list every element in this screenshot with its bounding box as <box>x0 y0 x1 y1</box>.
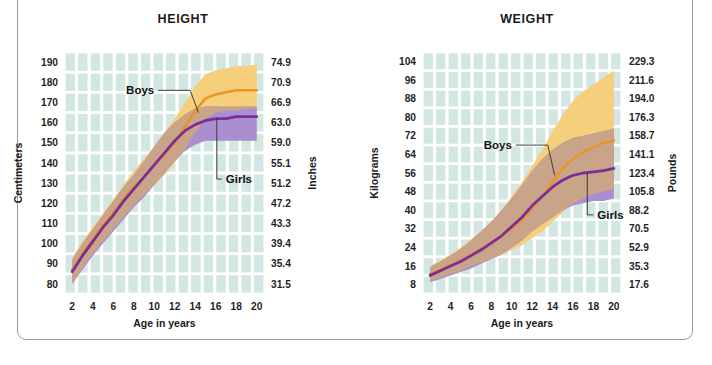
y-tick-left: 64 <box>405 149 417 160</box>
x-tick: 16 <box>567 301 579 312</box>
y-tick-right: 51.2 <box>271 178 291 189</box>
y-tick-left: 150 <box>41 137 58 148</box>
girls-series-label: Girls <box>226 173 252 185</box>
x-axis-label: Age in years <box>133 317 196 329</box>
x-tick: 10 <box>506 301 518 312</box>
y-tick-left: 40 <box>405 205 417 216</box>
x-tick: 20 <box>251 301 263 312</box>
y-tick-right: 55.1 <box>271 158 291 169</box>
boys-series-label: Boys <box>126 84 154 96</box>
y-tick-left: 88 <box>405 93 417 104</box>
y-tick-left: 80 <box>47 279 59 290</box>
y-tick-left: 72 <box>405 130 417 141</box>
x-tick: 2 <box>427 301 433 312</box>
x-tick: 8 <box>131 301 137 312</box>
y-tick-left: 80 <box>405 112 417 123</box>
x-tick: 6 <box>468 301 474 312</box>
y-tick-left: 140 <box>41 158 58 169</box>
y-tick-left: 110 <box>42 218 59 229</box>
y-tick-right: 176.3 <box>629 112 655 123</box>
y-tick-right: 229.3 <box>629 56 655 67</box>
girls-series-label: Girls <box>597 209 623 221</box>
y-tick-left: 24 <box>405 242 417 253</box>
y-tick-right: 70.9 <box>271 77 291 88</box>
x-tick: 14 <box>190 301 202 312</box>
x-tick: 18 <box>588 301 600 312</box>
growth-chart-figure: HEIGHT 190180170160150140130120110100908… <box>0 0 712 365</box>
y-tick-right: 141.1 <box>629 149 655 160</box>
weight-chart: WEIGHT 10496888072645648403224168229.321… <box>350 0 706 365</box>
y-axis-label-right: Inches <box>306 156 318 189</box>
y-tick-right: 47.2 <box>271 198 291 209</box>
y-tick-left: 56 <box>405 168 417 179</box>
y-tick-right: 43.3 <box>271 218 291 229</box>
x-tick: 4 <box>90 301 96 312</box>
y-tick-left: 104 <box>399 56 416 67</box>
x-tick: 4 <box>448 301 454 312</box>
y-tick-right: 17.6 <box>629 279 649 290</box>
y-tick-left: 170 <box>41 97 58 108</box>
y-tick-right: 194.0 <box>629 93 655 104</box>
y-axis-label-left: Kilograms <box>368 147 380 199</box>
x-tick: 8 <box>489 301 495 312</box>
y-axis-label-left: Centimeters <box>12 143 24 204</box>
y-tick-left: 160 <box>41 117 58 128</box>
y-tick-right: 35.4 <box>271 258 291 269</box>
y-tick-right: 63.0 <box>271 117 291 128</box>
x-tick: 12 <box>169 301 181 312</box>
x-tick: 2 <box>69 301 75 312</box>
y-tick-right: 52.9 <box>629 242 649 253</box>
y-tick-right: 88.2 <box>629 205 649 216</box>
weight-chart-plot: 10496888072645648403224168229.3211.6194.… <box>350 0 712 365</box>
y-tick-left: 180 <box>41 77 58 88</box>
y-tick-right: 66.9 <box>271 97 291 108</box>
x-tick: 16 <box>210 301 222 312</box>
y-tick-right: 35.3 <box>629 261 649 272</box>
y-tick-left: 120 <box>41 198 58 209</box>
x-tick: 12 <box>527 301 539 312</box>
y-tick-left: 32 <box>405 223 417 234</box>
y-tick-right: 105.8 <box>629 186 655 197</box>
x-tick: 6 <box>110 301 116 312</box>
height-chart: HEIGHT 190180170160150140130120110100908… <box>0 0 356 365</box>
y-tick-left: 130 <box>41 178 58 189</box>
x-tick: 14 <box>547 301 559 312</box>
y-tick-right: 211.6 <box>629 75 654 86</box>
y-tick-right: 123.4 <box>629 168 655 179</box>
boys-series-label: Boys <box>484 139 512 151</box>
x-axis-label: Age in years <box>491 317 554 329</box>
y-tick-left: 48 <box>405 186 417 197</box>
y-tick-right: 158.7 <box>629 130 655 141</box>
y-tick-right: 70.5 <box>629 223 649 234</box>
y-tick-left: 16 <box>405 261 417 272</box>
y-tick-left: 100 <box>41 238 58 249</box>
x-tick: 10 <box>149 301 161 312</box>
y-tick-right: 39.4 <box>271 238 291 249</box>
height-chart-plot: 190180170160150140130120110100908074.970… <box>0 0 356 365</box>
y-tick-right: 74.9 <box>271 57 291 68</box>
y-axis-label-right: Pounds <box>666 154 678 193</box>
y-tick-left: 90 <box>47 258 59 269</box>
y-tick-left: 8 <box>410 279 416 290</box>
y-tick-right: 59.0 <box>271 137 291 148</box>
x-tick: 20 <box>608 301 620 312</box>
x-tick: 18 <box>231 301 243 312</box>
y-tick-left: 96 <box>405 75 417 86</box>
y-tick-left: 190 <box>41 57 58 68</box>
y-tick-right: 31.5 <box>271 279 291 290</box>
